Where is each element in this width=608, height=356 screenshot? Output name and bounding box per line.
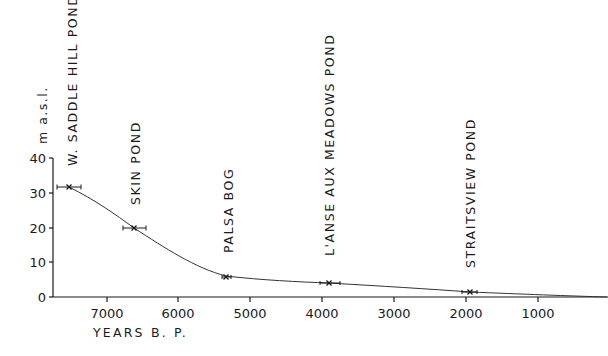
label-skin-pond: SKIN POND (128, 121, 143, 205)
x-tick-1000: 1000 (521, 306, 554, 321)
x-tick-5000: 5000 (233, 306, 266, 321)
x-axis (53, 297, 608, 302)
point-skin-pond (123, 226, 146, 231)
y-tick-20: 20 (29, 221, 46, 236)
label-palsa-bog: PALSA BOG (221, 168, 236, 253)
data-points (57, 185, 477, 295)
x-tick-2000: 2000 (449, 306, 482, 321)
x-tick-3000: 3000 (377, 306, 410, 321)
y-axis (49, 158, 53, 297)
y-tick-0: 0 (38, 290, 46, 305)
y-tick-10: 10 (29, 255, 46, 270)
x-tick-6000: 6000 (161, 306, 194, 321)
sea-level-curve (69, 187, 607, 297)
x-tick-7000: 7000 (90, 306, 123, 321)
point-w-saddle-hill-pond (57, 185, 81, 190)
y-axis-title: m a.s.l. (35, 86, 50, 144)
point-lanse-aux-meadows-pond (320, 281, 340, 286)
label-lanse-aux-meadows-pond: L'ANSE AUX MEADOWS POND (322, 34, 337, 256)
x-axis-title: YEARS B. P. (92, 325, 188, 340)
y-tick-30: 30 (29, 186, 46, 201)
sea-level-chart: 40 30 20 10 0 7000 6000 5000 4000 3000 2… (0, 0, 608, 356)
point-straitsview-pond (462, 290, 477, 295)
y-tick-40: 40 (29, 151, 46, 166)
x-tick-4000: 4000 (305, 306, 338, 321)
label-w-saddle-hill-pond: W. SADDLE HILL POND (65, 0, 80, 166)
point-palsa-bog (222, 275, 231, 280)
x-tick-labels: 7000 6000 5000 4000 3000 2000 1000 (90, 306, 554, 321)
y-tick-labels: 40 30 20 10 0 (29, 151, 46, 305)
label-straitsview-pond: STRAITSVIEW POND (463, 118, 478, 268)
